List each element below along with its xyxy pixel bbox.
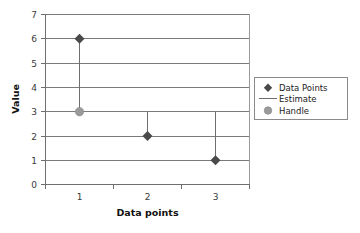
y-tick-label-1: 1: [31, 156, 37, 166]
y-tick-label-3: 3: [31, 107, 37, 117]
legend-label-handle: Handle: [279, 106, 309, 116]
y-tick-label-5: 5: [31, 59, 37, 69]
legend-label-estimate: Estimate: [279, 94, 317, 104]
legend: Data Points Estimate Handle: [255, 78, 348, 120]
y-tick-label-6: 6: [31, 34, 37, 44]
y-axis-title: Value: [10, 84, 21, 114]
chart-container: 7 6 5 4 3 2 1 0 1 2 3 Data points Value: [0, 0, 360, 233]
y-tick-label-2: 2: [31, 132, 37, 142]
x-tick-label-3: 3: [213, 192, 219, 202]
y-tick-label-7: 7: [31, 10, 37, 20]
legend-label-data-points: Data Points: [279, 83, 328, 93]
legend-circle-icon: [264, 107, 272, 115]
x-tick-label-1: 1: [77, 192, 83, 202]
y-tick-label-4: 4: [31, 83, 37, 93]
chart-svg: 7 6 5 4 3 2 1 0 1 2 3 Data points Value: [0, 0, 360, 233]
y-axis-ticks: [41, 15, 45, 185]
x-axis-title: Data points: [116, 207, 178, 218]
y-tick-label-0: 0: [31, 180, 37, 190]
handle-marker-point-1[interactable]: [75, 108, 83, 116]
x-tick-label-2: 2: [145, 192, 151, 202]
